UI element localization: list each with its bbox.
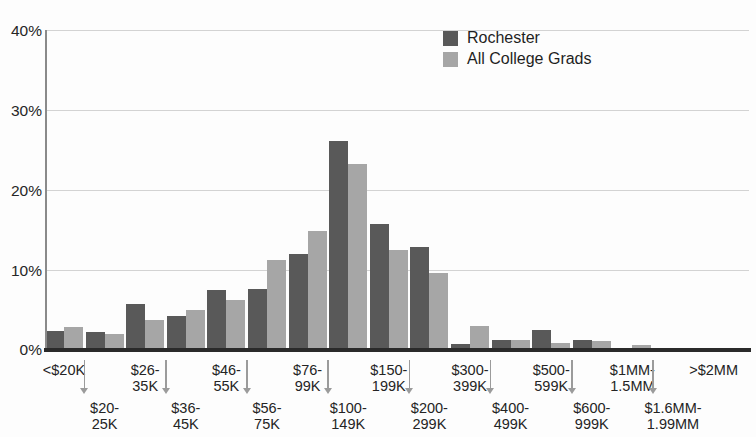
bar-all-college-grads bbox=[389, 250, 408, 350]
bar-chart: 40% 30% 20% 10% 0% Rochester All College… bbox=[0, 0, 756, 437]
bar-rochester bbox=[248, 289, 267, 350]
bar-group bbox=[370, 30, 408, 350]
x-axis-label: $150-199K bbox=[344, 362, 434, 394]
x-axis-label-line2: 99K bbox=[263, 378, 353, 394]
x-axis-label: $36-45K bbox=[141, 400, 231, 432]
x-axis-label-line2: 35K bbox=[100, 378, 190, 394]
x-axis-label-line1: $1MM- bbox=[587, 362, 677, 378]
y-tick-10: 10% bbox=[0, 263, 42, 279]
bar-group bbox=[248, 30, 286, 350]
bar-group bbox=[695, 30, 733, 350]
x-axis-label-line2: 1.5MM bbox=[587, 378, 677, 394]
bar-all-college-grads bbox=[267, 260, 286, 350]
x-axis-label-line1: $600- bbox=[547, 400, 637, 416]
bar-rochester bbox=[410, 247, 429, 350]
label-leader-arrow-icon bbox=[241, 360, 252, 396]
bar-rochester bbox=[167, 316, 186, 350]
x-axis-label-line2: 199K bbox=[344, 378, 434, 394]
x-axis-label-line1: <$20K bbox=[19, 362, 109, 378]
bar-rochester bbox=[329, 141, 348, 350]
x-axis-label-line2: 75K bbox=[222, 416, 312, 432]
x-axis-label-line2: 499K bbox=[466, 416, 556, 432]
bar-group bbox=[207, 30, 245, 350]
bar-all-college-grads bbox=[186, 310, 205, 350]
bar-rochester bbox=[207, 290, 226, 350]
x-axis-label: $500-599K bbox=[506, 362, 596, 394]
label-leader-arrow-icon bbox=[79, 360, 90, 396]
bar-group bbox=[654, 30, 692, 350]
legend-item-all-college-grads: All College Grads bbox=[443, 51, 592, 67]
x-axis-label-line2: 399K bbox=[425, 378, 515, 394]
legend-item-rochester: Rochester bbox=[443, 30, 592, 46]
bar-all-college-grads bbox=[429, 273, 448, 350]
label-leader-arrow-icon bbox=[647, 360, 658, 396]
x-axis-label: $20-25K bbox=[60, 400, 150, 432]
y-tick-30: 30% bbox=[0, 103, 42, 119]
x-axis-label-line2: 999K bbox=[547, 416, 637, 432]
x-axis-label: >$2MM bbox=[669, 362, 756, 378]
x-axis-label-line1: $500- bbox=[506, 362, 596, 378]
x-axis-label-line2: 55K bbox=[181, 378, 271, 394]
x-axis-label-line1: $36- bbox=[141, 400, 231, 416]
chart-legend: Rochester All College Grads bbox=[443, 30, 592, 67]
bar-group bbox=[410, 30, 448, 350]
x-axis-label-line2: 599K bbox=[506, 378, 596, 394]
x-axis-label: <$20K bbox=[19, 362, 109, 378]
x-axis-labels: <$20K$20-25K$26-35K$36-45K$46-55K$56-75K… bbox=[0, 352, 756, 437]
x-axis-label-line1: $400- bbox=[466, 400, 556, 416]
x-axis-label: $300-399K bbox=[425, 362, 515, 394]
bar-group bbox=[167, 30, 205, 350]
x-axis-label-line2: 45K bbox=[141, 416, 231, 432]
bar-rochester bbox=[370, 224, 389, 350]
x-axis-label-line1: $200- bbox=[384, 400, 474, 416]
x-axis-label-line1: $1.6MM- bbox=[628, 400, 718, 416]
x-axis-label-line1: $300- bbox=[425, 362, 515, 378]
x-axis-label: $400-499K bbox=[466, 400, 556, 432]
y-tick-40: 40% bbox=[0, 23, 42, 39]
label-leader-arrow-icon bbox=[566, 360, 577, 396]
x-axis-label: $1.6MM-1.99MM bbox=[628, 400, 718, 432]
bar-group bbox=[532, 30, 570, 350]
bar-all-college-grads bbox=[145, 320, 164, 350]
bar-rochester bbox=[289, 254, 308, 350]
x-axis-label: $100-149K bbox=[303, 400, 393, 432]
bar-all-college-grads bbox=[470, 326, 489, 350]
x-axis-label-line1: $46- bbox=[181, 362, 271, 378]
bar-group bbox=[86, 30, 124, 350]
label-leader-arrow-icon bbox=[160, 360, 171, 396]
x-axis-label-line1: $100- bbox=[303, 400, 393, 416]
bar-rochester bbox=[532, 330, 551, 350]
x-axis-label-line2: 25K bbox=[60, 416, 150, 432]
y-tick-20: 20% bbox=[0, 183, 42, 199]
x-axis-label: $1MM-1.5MM bbox=[587, 362, 677, 394]
x-axis-label: $56-75K bbox=[222, 400, 312, 432]
x-axis-label: $600-999K bbox=[547, 400, 637, 432]
x-axis-label: $76-99K bbox=[263, 362, 353, 394]
bar-group bbox=[289, 30, 327, 350]
label-leader-arrow-icon bbox=[485, 360, 496, 396]
bar-all-college-grads bbox=[308, 231, 327, 350]
x-axis-label: $46-55K bbox=[181, 362, 271, 394]
legend-label: All College Grads bbox=[467, 51, 592, 67]
bar-all-college-grads bbox=[226, 300, 245, 350]
x-axis-label-line2: 149K bbox=[303, 416, 393, 432]
legend-swatch-icon bbox=[443, 31, 458, 46]
bar-all-college-grads bbox=[64, 327, 83, 350]
bar-all-college-grads bbox=[348, 164, 367, 350]
plot-area bbox=[47, 30, 749, 350]
x-axis-label: $26-35K bbox=[100, 362, 190, 394]
x-axis-label-line1: >$2MM bbox=[669, 362, 756, 378]
bar-rochester bbox=[126, 304, 145, 350]
x-axis-label-line2: 299K bbox=[384, 416, 474, 432]
bar-group bbox=[329, 30, 367, 350]
x-axis-label: $200-299K bbox=[384, 400, 474, 432]
bar-group bbox=[613, 30, 651, 350]
bar-group bbox=[126, 30, 164, 350]
label-leader-arrow-icon bbox=[404, 360, 415, 396]
bar-group bbox=[573, 30, 611, 350]
legend-label: Rochester bbox=[467, 30, 540, 46]
x-axis-label-line1: $56- bbox=[222, 400, 312, 416]
x-axis-label-line2: 1.99MM bbox=[628, 416, 718, 432]
legend-swatch-icon bbox=[443, 52, 458, 67]
x-axis-label-line1: $150- bbox=[344, 362, 434, 378]
